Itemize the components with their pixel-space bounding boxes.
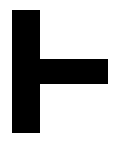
horizontal-stroke [40,59,108,84]
right-tack-icon: ⊢ [0,0,116,143]
symbol-glyph-label: ⊢ [0,0,1,1]
vertical-stroke [12,10,40,133]
